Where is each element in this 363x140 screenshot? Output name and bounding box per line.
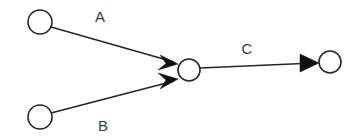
node-right[interactable] bbox=[319, 51, 341, 73]
node-top-left[interactable] bbox=[28, 10, 52, 34]
edge-c-group[interactable] bbox=[200, 54, 319, 72]
edge-b-arrowhead bbox=[158, 73, 178, 89]
edge-a-arrowhead bbox=[158, 55, 178, 70]
diagram-svg: A B C bbox=[0, 0, 363, 140]
edge-label-b: B bbox=[98, 117, 108, 134]
edge-b-line bbox=[51, 81, 174, 113]
edge-b-group[interactable] bbox=[51, 73, 178, 113]
diagram-canvas: A B C bbox=[0, 0, 363, 140]
edge-a-line bbox=[51, 27, 174, 62]
edge-a-group[interactable] bbox=[51, 27, 178, 70]
node-bottom-left[interactable] bbox=[28, 105, 52, 129]
edge-c-line bbox=[200, 64, 303, 69]
edge-c-arrowhead bbox=[300, 54, 319, 72]
node-center[interactable] bbox=[178, 59, 200, 81]
edge-label-a: A bbox=[95, 8, 105, 25]
edge-label-c: C bbox=[241, 40, 252, 57]
